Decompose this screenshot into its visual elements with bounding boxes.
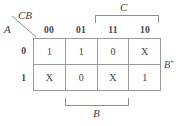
kmap-cell[interactable]: 0 <box>97 39 129 64</box>
kmap-cell[interactable]: 0 <box>65 65 97 90</box>
kmap-cell[interactable]: 1 <box>128 65 160 90</box>
kmap-row: 1 1 0 X <box>34 39 160 64</box>
row-variable-label: A <box>4 23 11 35</box>
karnaugh-map: CB A C 00 01 11 10 0 1 1 1 0 X X 0 X 1 B… <box>0 0 185 126</box>
row-header: 0 <box>16 38 31 65</box>
kmap-cell[interactable]: 1 <box>65 39 97 64</box>
kmap-cell[interactable]: X <box>34 65 65 90</box>
kmap-grid: 1 1 0 X X 0 X 1 <box>33 38 161 91</box>
group-bracket-b <box>65 98 129 106</box>
kmap-cell[interactable]: X <box>128 39 160 64</box>
row-header: 1 <box>16 65 31 92</box>
column-header: 01 <box>65 24 97 37</box>
output-function-superscript: + <box>170 58 174 66</box>
column-header: 00 <box>33 24 65 37</box>
column-header-row: 00 01 11 10 <box>33 24 161 37</box>
column-variable-label: CB <box>18 9 32 21</box>
row-header-column: 0 1 <box>16 38 31 91</box>
kmap-row: X 0 X 1 <box>34 64 160 90</box>
output-function-label: B+ <box>164 58 174 70</box>
column-header: 11 <box>97 24 129 37</box>
axis-variable-corner: CB A <box>0 4 36 38</box>
kmap-cell[interactable]: X <box>97 65 129 90</box>
group-bracket-c <box>95 15 159 23</box>
group-bracket-b-label: B <box>93 107 100 119</box>
group-bracket-c-label: C <box>120 1 127 13</box>
kmap-cell[interactable]: 1 <box>34 39 65 64</box>
column-header: 10 <box>129 24 161 37</box>
